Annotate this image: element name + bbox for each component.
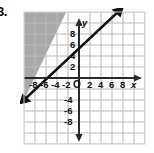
y-tick--8: -8 [64,117,72,127]
coordinate-plane: -8 -6 -4 -2 O 2 4 6 8 x 8 6 4 2 y -4 -6 … [20,8,146,145]
y-axis-label: y [82,18,87,28]
x-tick--4: -4 [51,80,59,90]
plane-svg [20,8,146,145]
x-tick--6: -6 [40,80,48,90]
y-tick--6: -6 [64,106,72,116]
x-tick--8: -8 [29,80,37,90]
problem-number: 3. [0,5,7,19]
x-tick--2: -2 [62,80,70,90]
x-axis-label: x [131,80,136,90]
x-tick-8: 8 [120,80,125,90]
y-tick-2: 2 [70,62,75,72]
x-tick-2: 2 [87,80,92,90]
y-tick-8: 8 [70,29,75,39]
x-tick-6: 6 [109,80,114,90]
y-tick-6: 6 [70,40,75,50]
y-tick--4: -4 [64,95,72,105]
y-tick-4: 4 [70,51,75,61]
origin-label: O [73,80,81,90]
x-tick-4: 4 [98,80,103,90]
graph-figure: 3. [0,0,154,153]
